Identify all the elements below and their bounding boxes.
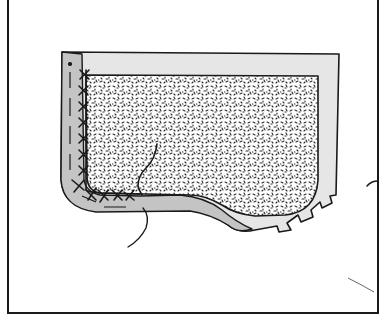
pocket-diagram [0, 0, 392, 321]
